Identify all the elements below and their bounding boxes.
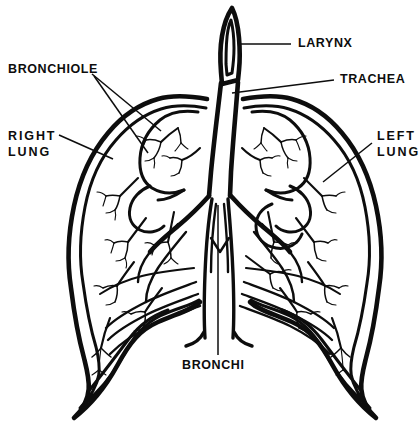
- lung-diagram-svg: Human Respiratory System — Lungs, Trache…: [0, 0, 420, 430]
- label-trachea: TRACHEA: [340, 72, 405, 86]
- label-right-lung-line-2: LUNG: [8, 145, 51, 159]
- label-bronchiole: BRONCHIOLE: [8, 62, 98, 76]
- label-left-lung-line-1: LEFT: [377, 129, 416, 143]
- label-left-lung-line-2: LUNG: [377, 145, 420, 159]
- label-bronchi: BRONCHI: [182, 358, 245, 372]
- respiratory-diagram: Human Respiratory System — Lungs, Trache…: [0, 0, 420, 430]
- label-larynx: LARYNX: [298, 36, 353, 50]
- label-right-lung-line-1: RIGHT: [8, 129, 56, 143]
